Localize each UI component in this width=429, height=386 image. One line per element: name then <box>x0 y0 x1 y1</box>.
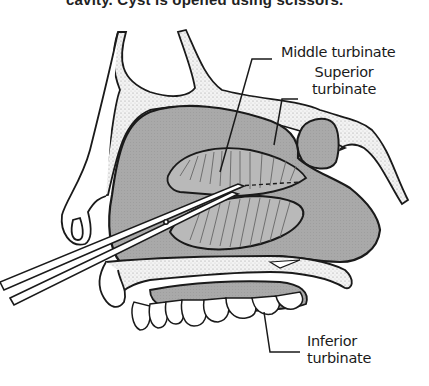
label-inferior-turbinate-line1: Inferior <box>307 333 371 350</box>
label-middle-turbinate: Middle turbinate <box>281 44 395 61</box>
label-superior-turbinate-line1: Superior <box>300 64 388 81</box>
label-superior-turbinate: Superior turbinate <box>300 64 388 98</box>
label-superior-turbinate-line2: turbinate <box>300 81 388 98</box>
label-inferior-turbinate-line2: turbinate <box>307 350 371 367</box>
label-inferior-turbinate: Inferior turbinate <box>307 333 371 367</box>
sphenoid-sinus <box>297 119 338 169</box>
